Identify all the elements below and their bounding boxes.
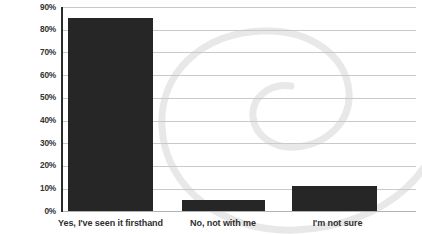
x-axis-categories: Yes, I've seen it firsthand No, not with… [0, 214, 422, 234]
bar [292, 186, 377, 211]
bar [182, 200, 265, 211]
y-axis-line [61, 7, 63, 212]
bar-chart: 90% 80% 70% 60% 50% 40% 30% 20% 10% 0% Y… [0, 0, 422, 234]
x-tick-label: I'm not sure [283, 217, 392, 228]
bar-series [0, 0, 422, 234]
x-tick-label: No, not with me [168, 217, 278, 228]
x-tick-label: Yes, I've seen it firsthand [51, 217, 170, 228]
bar [68, 18, 153, 211]
